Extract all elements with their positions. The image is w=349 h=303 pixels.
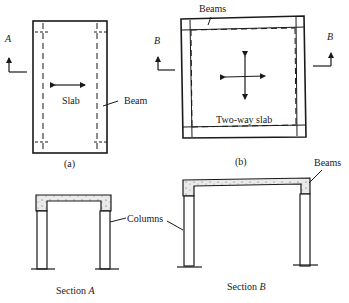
columns-leader-b [167,221,183,230]
caption-a: (a) [64,158,75,170]
section-a-title: Section A [56,285,96,296]
section-a-marker: A [4,33,12,44]
beams-label: Beams [199,3,226,14]
columns-label: Columns [127,213,163,224]
caption-b: (b) [235,156,247,168]
beam-leader [103,101,118,106]
section-b-left-marker: B [154,35,160,46]
section-b-title: Section B [227,281,266,292]
structural-slab-diagram: Slab Beam A (a) Beams Two-way slab B B (… [0,0,349,303]
section-b-right-marker: B [327,31,333,42]
columns-leader-a [110,218,126,222]
two-way-slab-label: Two-way slab [216,114,272,125]
column-right [300,194,310,266]
column-left [184,196,194,266]
column-right [100,211,110,269]
slab-and-beams [183,178,310,196]
section-a-frame [31,195,126,269]
slab-and-beams [36,195,111,211]
slab-outline [33,21,107,153]
beams-label-b: Beams [314,157,341,168]
column-left [37,211,47,269]
beams-leader-b [309,170,322,183]
slab-label: Slab [62,95,80,106]
beam-label: Beam [124,95,148,106]
section-b-frame [167,170,322,267]
panel-a-plan [9,21,118,153]
